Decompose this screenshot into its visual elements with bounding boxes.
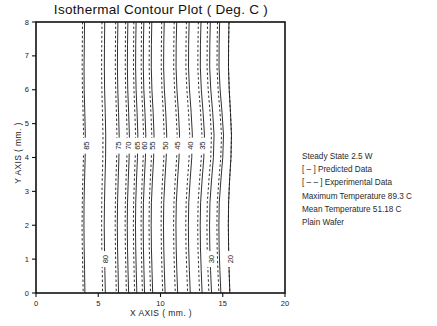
x-axis-title: X AXIS ( mm. ) [36,308,286,318]
svg-text:2: 2 [25,221,29,230]
svg-text:8: 8 [25,18,29,27]
svg-text:85: 85 [82,141,91,149]
contour-predicted-65 [135,22,137,293]
svg-text:20: 20 [281,299,289,308]
y-axis-ticks: 012345678 [25,18,36,298]
svg-text:15: 15 [219,299,227,308]
contour-experimental-75 [115,22,117,293]
svg-text:55: 55 [148,141,157,149]
contour-predicted-70 [127,22,129,293]
axes-frame [36,22,285,293]
contour-label-20: 20 [225,251,234,267]
annotation-legend: Steady State 2.5 W[ – ] Predicted Data[ … [302,150,437,229]
svg-text:30: 30 [207,255,216,263]
contour-predicted-35 [200,22,204,293]
svg-text:45: 45 [173,141,182,149]
isothermal-contour-figure: Isothermal Contour Plot ( Deg. C ) 05101… [0,0,437,326]
annotation-line: Plain Wafer [302,216,437,229]
annotation-line: [ – – ] Experimental Data [302,176,437,189]
x-axis-ticks: 05101520 [34,293,289,308]
contour-predicted-75 [117,22,119,293]
svg-text:3: 3 [25,187,29,196]
contour-experimental-70 [125,22,127,293]
contour-label-30: 30 [207,251,216,267]
y-axis-title: Y AXIS ( mm. ) [13,108,23,198]
annotation-line: Steady State 2.5 W [302,150,437,163]
svg-text:75: 75 [114,141,123,149]
contour-label-55: 55 [148,138,157,154]
contour-label-45: 45 [173,138,182,154]
contour-label-40: 40 [185,138,194,154]
contour-experimental-85 [82,22,84,293]
svg-text:5: 5 [96,299,100,308]
contour-predicted-85 [84,22,85,293]
svg-text:1: 1 [25,255,29,264]
annotation-line: [ – ] Predicted Data [302,163,437,176]
svg-text:5: 5 [25,119,29,128]
svg-text:4: 4 [25,153,29,162]
svg-text:50: 50 [161,141,170,149]
svg-text:10: 10 [156,299,164,308]
svg-text:0: 0 [34,299,38,308]
svg-text:35: 35 [198,141,207,149]
annotation-line: Maximum Temperature 89.3 C [302,190,437,203]
contour-experimental-35 [198,22,202,293]
svg-text:6: 6 [25,85,29,94]
contour-label-85: 85 [81,138,90,154]
svg-text:80: 80 [101,255,110,263]
svg-text:7: 7 [25,51,29,60]
svg-text:40: 40 [186,141,195,149]
contour-label-80: 80 [101,251,110,267]
contour-label-75: 75 [114,138,123,154]
annotation-line: Mean Temperature 51.18 C [302,203,437,216]
svg-text:0: 0 [25,289,29,298]
contour-label-35: 35 [197,138,206,154]
contour-label-50: 50 [160,138,169,154]
svg-text:20: 20 [226,255,235,263]
